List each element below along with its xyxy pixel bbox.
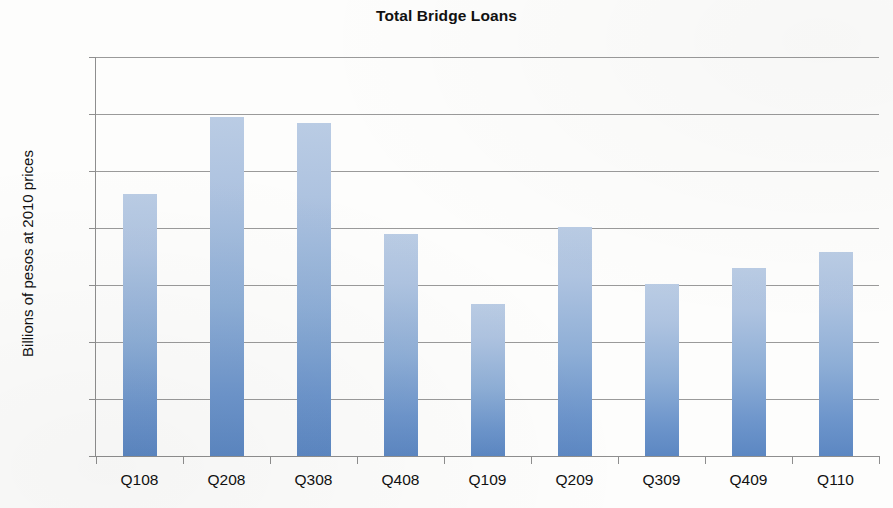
y-tick-mark-10 [89,171,96,172]
x-tick-label-Q408: Q408 [358,471,444,489]
bar-Q208[interactable] [210,117,244,456]
bar-Q408[interactable] [384,234,418,456]
y-tick-mark-12 [89,114,96,115]
bar-Q308[interactable] [297,123,331,456]
x-tick-mark-Q409 [705,456,706,464]
bar-chart: Total Bridge Loans Billions of pesos at … [0,0,893,508]
bar-Q209[interactable] [558,227,592,456]
gridline-12 [96,114,879,115]
y-tick-mark-14 [89,57,96,58]
plot-area: 02468101214Q108Q208Q308Q408Q109Q209Q309Q… [95,57,879,457]
x-tick-mark-Q108 [96,456,97,464]
y-tick-mark-2 [89,399,96,400]
x-tick-mark-Q308 [270,456,271,464]
y-tick-mark-6 [89,285,96,286]
x-tick-mark-Q110 [792,456,793,464]
bar-Q109[interactable] [471,304,505,456]
x-tick-mark-end [879,456,880,464]
x-tick-label-Q409: Q409 [706,471,792,489]
x-tick-mark-Q309 [618,456,619,464]
x-tick-label-Q208: Q208 [184,471,270,489]
x-tick-mark-Q408 [357,456,358,464]
x-tick-label-Q110: Q110 [793,471,879,489]
bar-Q409[interactable] [732,268,766,456]
x-tick-label-Q309: Q309 [619,471,705,489]
chart-title: Total Bridge Loans [0,7,893,25]
x-tick-label-Q308: Q308 [271,471,357,489]
x-tick-label-Q109: Q109 [445,471,531,489]
bar-Q309[interactable] [645,284,679,456]
bar-Q110[interactable] [819,252,853,456]
bar-Q108[interactable] [123,194,157,456]
y-tick-mark-8 [89,228,96,229]
x-tick-label-Q108: Q108 [97,471,183,489]
y-axis-title: Billions of pesos at 2010 prices [19,64,36,444]
x-tick-mark-Q209 [531,456,532,464]
y-tick-mark-0 [89,456,96,457]
x-tick-label-Q209: Q209 [532,471,618,489]
x-tick-mark-Q208 [183,456,184,464]
y-tick-mark-4 [89,342,96,343]
gridline-14 [96,57,879,58]
x-tick-mark-Q109 [444,456,445,464]
